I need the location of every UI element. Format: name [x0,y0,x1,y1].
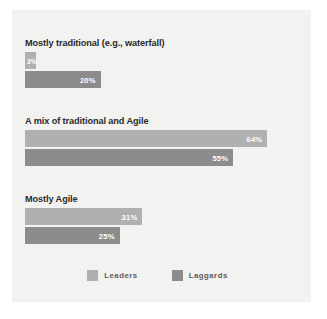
legend-item-leaders[interactable]: Leaders [87,270,137,281]
category-label: A mix of traditional and Agile [25,116,290,127]
bar-value-label: 25% [99,231,115,240]
category-label: Mostly Agile [25,194,290,205]
plot-area: Mostly traditional (e.g., waterfall) 3% … [25,38,290,258]
bar-row-leaders: 31% [25,208,290,225]
bar-row-leaders: 64% [25,130,290,147]
bar-row-laggards: 25% [25,227,290,244]
bar-laggards[interactable]: 25% [25,227,120,244]
bar-row-laggards: 20% [25,71,290,88]
bar-row-leaders: 3% [25,52,290,69]
bar-value-label: 31% [122,212,138,221]
category-label: Mostly traditional (e.g., waterfall) [25,38,290,49]
bar-value-label: 3% [27,57,36,64]
chart-legend: Leaders Laggards [25,270,290,281]
bar-row-laggards: 55% [25,149,290,166]
bar-leaders[interactable]: 31% [25,208,142,225]
bar-group-mostly-traditional: Mostly traditional (e.g., waterfall) 3% … [25,38,290,90]
legend-item-laggards[interactable]: Laggards [172,270,228,281]
bar-leaders[interactable]: 64% [25,130,267,147]
bar-value-label: 55% [212,153,228,162]
bar-value-label: 64% [246,134,262,143]
bar-group-mostly-agile: Mostly Agile 31% 25% [25,194,290,246]
legend-label: Laggards [189,271,228,280]
legend-label: Leaders [104,271,137,280]
bar-laggards[interactable]: 20% [25,71,101,88]
chart-figure: Mostly traditional (e.g., waterfall) 3% … [0,0,327,319]
bar-value-label: 20% [80,75,96,84]
bar-laggards[interactable]: 55% [25,149,233,166]
bar-leaders[interactable]: 3% [25,52,36,69]
legend-swatch-icon [172,270,183,281]
bar-group-mix-traditional-agile: A mix of traditional and Agile 64% 55% [25,116,290,168]
legend-swatch-icon [87,270,98,281]
